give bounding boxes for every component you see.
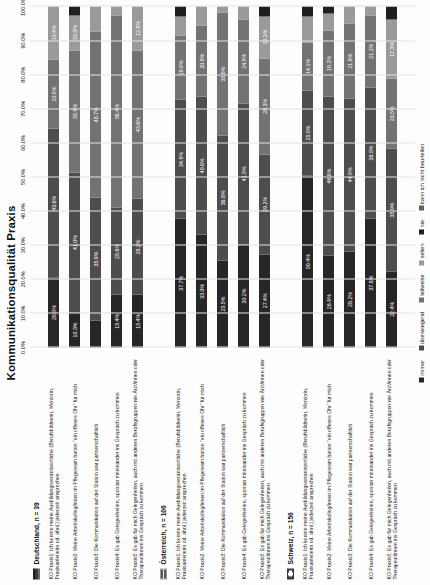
country-flag-icon bbox=[287, 568, 294, 579]
stacked-bar[interactable]: 20.5%43.6%20.5%15.4% bbox=[48, 6, 59, 347]
bar-segment[interactable] bbox=[175, 6, 186, 16]
bar-segment[interactable]: 12.8% bbox=[132, 6, 143, 50]
bar-segment[interactable]: 44.9% bbox=[344, 98, 355, 251]
stacked-bar[interactable]: 35.9%48.7% bbox=[90, 6, 101, 347]
bars-column: 20.5%43.6%20.5%15.4%10.3%41.0%35.9%10.3%… bbox=[30, 6, 415, 347]
legend-label: immer bbox=[419, 359, 425, 375]
axis-tick: 100.0% bbox=[20, 0, 26, 15]
stacked-bar[interactable]: 25.5%36.8%35.8% bbox=[217, 6, 228, 347]
bar-segment[interactable] bbox=[90, 6, 101, 31]
bar-segment[interactable]: 35.9% bbox=[69, 50, 80, 172]
bar-segment[interactable] bbox=[175, 16, 186, 35]
bar-segment[interactable]: 28.2% bbox=[132, 198, 143, 294]
legend-item[interactable]: selten bbox=[419, 243, 425, 265]
legend-label: teilweise bbox=[419, 274, 425, 295]
category-label: KO Praxis4: Es gab Gelegenheiten, sponta… bbox=[106, 350, 127, 579]
bar-segment[interactable] bbox=[196, 6, 207, 25]
stacked-bar[interactable]: 22.4%35.9%20.5%17.3% bbox=[386, 6, 397, 347]
bar-segment[interactable] bbox=[259, 6, 270, 16]
bar-segment[interactable]: 18.9% bbox=[175, 35, 186, 99]
bar-segment[interactable]: 28.3% bbox=[259, 58, 270, 155]
bar-segment[interactable] bbox=[323, 13, 334, 30]
bar-segment[interactable]: 25.0% bbox=[302, 90, 313, 175]
bar-segment[interactable] bbox=[217, 6, 228, 12]
bar-segment[interactable]: 40.6% bbox=[196, 96, 207, 234]
bar-segment[interactable]: 25.6% bbox=[111, 207, 122, 294]
bar-segment[interactable]: 48.7% bbox=[90, 31, 101, 197]
bar-segment[interactable]: 22.4% bbox=[386, 271, 397, 347]
bar-segment[interactable] bbox=[111, 6, 122, 15]
bar-segment[interactable]: 30.2% bbox=[238, 244, 249, 347]
bar-segment[interactable]: 43.6% bbox=[48, 128, 59, 277]
bar-segment[interactable] bbox=[69, 6, 80, 15]
stacked-bar[interactable]: 28.2%44.9%21.8% bbox=[344, 6, 355, 347]
stacked-bar[interactable]: 15.4%25.6%56.4% bbox=[111, 6, 122, 347]
stacked-bar[interactable]: 27.4%29.2%28.3%12.3% bbox=[259, 6, 270, 347]
stacked-bar[interactable]: 15.4%28.2%43.6%12.8% bbox=[132, 6, 143, 347]
stacked-bar[interactable]: 33.0%40.6%20.8% bbox=[196, 6, 207, 347]
bar-segment[interactable]: 15.4% bbox=[48, 6, 59, 59]
bar-segment[interactable]: 46.8% bbox=[323, 96, 334, 256]
bar-segment[interactable] bbox=[365, 6, 376, 15]
bar-segment[interactable]: 35.9% bbox=[386, 148, 397, 270]
bar-segment[interactable] bbox=[238, 6, 249, 19]
bar-segment[interactable]: 24.5% bbox=[238, 19, 249, 103]
bar-segment[interactable] bbox=[323, 6, 334, 13]
bar-segment[interactable]: 28.2% bbox=[344, 251, 355, 347]
stacked-bar[interactable]: 37.8%38.5%21.2% bbox=[365, 6, 376, 347]
bar-segment[interactable]: 37.8% bbox=[365, 218, 376, 347]
bar-segment[interactable]: 21.8% bbox=[344, 23, 355, 97]
bar-segment[interactable]: 35.9% bbox=[90, 197, 101, 319]
bar-segment[interactable]: 25.5% bbox=[217, 260, 228, 347]
legend-item[interactable]: nie bbox=[419, 219, 425, 233]
bar-segment[interactable]: 41.0% bbox=[69, 172, 80, 312]
bar-segment[interactable]: 35.8% bbox=[217, 13, 228, 135]
bar-segment[interactable]: 15.4% bbox=[111, 295, 122, 348]
chart-title: Kommunikationsqualität Praxis bbox=[5, 6, 17, 579]
stacked-bar[interactable]: 50.4%25.0%14.1% bbox=[302, 6, 313, 347]
bar-segment[interactable]: 27.4% bbox=[259, 254, 270, 347]
bar-segment[interactable]: 37.7% bbox=[175, 218, 186, 347]
table-row: 28.2%44.9%21.8% bbox=[339, 6, 360, 347]
bar-segment[interactable]: 50.4% bbox=[302, 175, 313, 347]
stacked-bar[interactable]: 30.2%41.5%24.5% bbox=[238, 6, 249, 347]
bar-segment[interactable]: 29.2% bbox=[259, 154, 270, 254]
legend-item[interactable]: immer bbox=[419, 359, 425, 382]
bar-segment[interactable]: 38.5% bbox=[365, 87, 376, 218]
bar-segment[interactable]: 20.8% bbox=[196, 25, 207, 96]
bar-segment[interactable]: 26.9% bbox=[323, 255, 334, 347]
bar-segment[interactable] bbox=[386, 6, 397, 19]
bar-segment[interactable]: 34.9% bbox=[175, 99, 186, 218]
bar-segment[interactable] bbox=[302, 6, 313, 16]
bar-segment[interactable]: 33.0% bbox=[196, 234, 207, 347]
bar-segment[interactable]: 43.6% bbox=[132, 50, 143, 199]
bar-segment[interactable]: 36.8% bbox=[217, 135, 228, 260]
stacked-bar[interactable]: 37.7%34.9%18.9% bbox=[175, 6, 186, 347]
bar-segment[interactable]: 12.3% bbox=[259, 16, 270, 58]
category-label-text: KO Praxis3: Die Kommunikation auf der St… bbox=[347, 352, 353, 579]
country-flag-icon bbox=[33, 568, 40, 579]
stacked-bar[interactable]: 26.9%46.8%19.2% bbox=[323, 6, 334, 347]
bar-segment[interactable]: 10.3% bbox=[69, 15, 80, 50]
legend-item[interactable]: überwiegend bbox=[419, 311, 425, 350]
bar-segment[interactable]: 21.2% bbox=[365, 15, 376, 87]
group-gap bbox=[275, 350, 284, 579]
bar-segment[interactable]: 20.5% bbox=[48, 59, 59, 129]
legend-item[interactable]: kann ich nicht beurteilen bbox=[419, 143, 425, 210]
bar-segment[interactable]: 56.4% bbox=[111, 15, 122, 207]
stacked-bar[interactable]: 10.3%41.0%35.9%10.3% bbox=[69, 6, 80, 347]
bar-segment[interactable] bbox=[344, 6, 355, 23]
bar-segment[interactable]: 15.4% bbox=[132, 295, 143, 348]
bar-segment[interactable]: 17.3% bbox=[386, 19, 397, 78]
legend-item[interactable]: teilweise bbox=[419, 274, 425, 302]
bar-segment[interactable]: 19.2% bbox=[323, 30, 334, 95]
group-heading: Österreich, n = 106 bbox=[157, 350, 170, 579]
bar-segment[interactable]: 14.1% bbox=[302, 42, 313, 90]
bar-segment[interactable]: 20.5% bbox=[48, 277, 59, 347]
bar-segment[interactable]: 10.3% bbox=[69, 312, 80, 347]
bar-segment[interactable] bbox=[302, 16, 313, 42]
bar-segment[interactable]: 20.5% bbox=[386, 78, 397, 148]
bar-segment[interactable] bbox=[90, 320, 101, 347]
axis-tick: 50.0% bbox=[20, 169, 26, 185]
bar-segment[interactable]: 41.5% bbox=[238, 103, 249, 245]
